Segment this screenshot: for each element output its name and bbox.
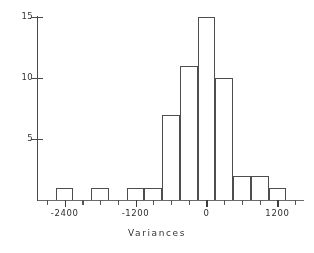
histogram-figure: 51015 -2400-120001200 Variances: [0, 0, 314, 253]
histogram-bar: [127, 188, 145, 200]
histogram-bar: [198, 17, 216, 200]
histogram-bar: [251, 176, 269, 200]
histogram-bar: [162, 115, 180, 200]
histogram-bar: [56, 188, 74, 200]
histogram-bar: [91, 188, 109, 200]
histogram-bar: [144, 188, 162, 200]
histogram-bar: [269, 188, 287, 200]
histogram-bar: [215, 78, 233, 200]
histogram-bar: [233, 176, 251, 200]
x-axis-title: Variances: [0, 228, 314, 238]
histogram-bar: [180, 66, 198, 200]
plot-area: [0, 0, 314, 253]
